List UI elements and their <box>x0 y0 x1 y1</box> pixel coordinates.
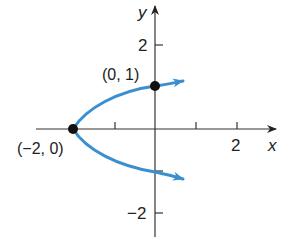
x-axis-label: x <box>268 137 277 154</box>
point-vertex <box>68 124 78 134</box>
y-axis-label: y <box>138 4 147 21</box>
point-label-0-1: (0, 1) <box>102 67 139 83</box>
curve-upper-branch <box>73 81 183 129</box>
point-label-vertex: (−2, 0) <box>17 141 64 157</box>
point-0-1 <box>150 81 160 91</box>
curve-lower-branch <box>73 129 183 179</box>
x-tick-label-2: 2 <box>231 137 240 154</box>
y-tick-label-neg2: −2 <box>127 205 146 222</box>
x-ticks <box>115 122 237 129</box>
y-tick-label-2: 2 <box>138 37 147 54</box>
